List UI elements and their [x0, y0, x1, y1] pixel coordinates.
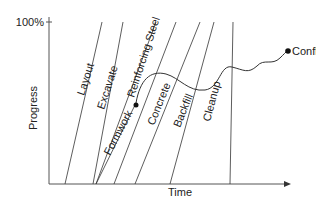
formwork-start-dot-icon — [134, 103, 139, 108]
conflict-label: Conflict — [292, 45, 316, 57]
activity-label-reinforcing-steel: Reinforcing Steel — [124, 15, 161, 98]
activity-line-extra — [230, 22, 233, 184]
activity-label-backfill: Backfill — [171, 92, 195, 129]
activity-label-concrete: Concrete — [145, 81, 173, 127]
x-axis-arrow-icon — [284, 181, 291, 187]
x-axis-label: Time — [168, 186, 192, 198]
activity-label-excavate: Excavate — [94, 64, 119, 111]
activity-label-layout: Layout — [74, 61, 96, 96]
progress-time-diagram: 100% Progress Time Conflict Layout Excav… — [0, 0, 316, 210]
activity-label-formwork: Formwork — [101, 108, 135, 157]
y-axis-label: Progress — [27, 85, 39, 130]
conflict-dot-icon — [285, 48, 291, 54]
activity-label-cleanup: Cleanup — [200, 80, 222, 123]
y-axis-top-tick-label: 100% — [16, 16, 44, 28]
